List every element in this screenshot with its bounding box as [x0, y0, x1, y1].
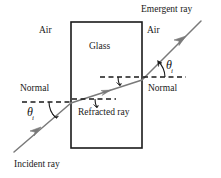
emergent-ray-arrowhead-icon — [174, 36, 186, 46]
incident-ray-line — [14, 103, 71, 152]
label-glass: Glass — [89, 42, 110, 52]
incident-ray-arrowhead-icon — [30, 127, 41, 136]
label-angle-incidence: θi — [27, 106, 35, 121]
angle-arc-emergence — [159, 62, 166, 78]
label-emergent-ray: Emergent ray — [141, 5, 192, 15]
label-refracted-ray: Refracted ray — [78, 108, 129, 118]
label-angle-emergence: θi — [166, 59, 174, 74]
label-air-right: Air — [147, 26, 160, 36]
optics-refraction-diagram: Air Air Glass Normal Normal Refracted ra… — [0, 0, 221, 178]
angle-arc-incidence — [49, 102, 56, 118]
label-air-left: Air — [39, 26, 52, 36]
theta-emergence-subscript: i — [171, 67, 173, 75]
label-normal-right: Normal — [148, 84, 177, 94]
label-incident-ray: Incident ray — [14, 160, 60, 170]
theta-incidence-subscript: i — [32, 114, 34, 122]
label-normal-left: Normal — [20, 84, 49, 94]
